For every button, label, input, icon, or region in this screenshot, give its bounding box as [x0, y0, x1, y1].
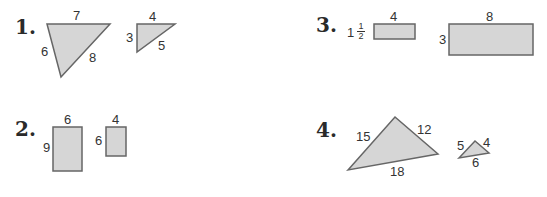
p1-small-triangle	[137, 24, 175, 52]
p4-small-left-label: 5	[457, 139, 464, 152]
p1-small-left-label: 3	[126, 31, 133, 44]
p1-small-hyp-label: 5	[158, 39, 165, 52]
p3-large-rectangle	[449, 24, 533, 55]
p3-small-height-denominator: 2	[357, 32, 365, 41]
figures-canvas	[0, 0, 547, 197]
p2-small-rectangle	[106, 127, 126, 156]
p2-small-height-label: 6	[95, 134, 102, 147]
p1-small-top-label: 4	[149, 10, 156, 23]
p4-small-bottom-label: 6	[472, 156, 479, 169]
p3-small-width-label: 4	[390, 10, 397, 23]
p3-large-width-label: 8	[486, 10, 493, 23]
p4-small-right-label: 4	[483, 136, 490, 149]
p2-large-width-label: 6	[64, 113, 71, 126]
p4-large-left-label: 15	[356, 130, 370, 143]
p3-large-height-label: 3	[439, 33, 446, 46]
p2-small-width-label: 4	[112, 113, 119, 126]
problem-3-number: 3.	[316, 13, 337, 37]
p3-small-height-whole: 1	[347, 26, 354, 39]
p1-large-left-label: 6	[41, 45, 48, 58]
p1-large-top-label: 7	[73, 9, 80, 22]
problem-4-number: 4.	[316, 118, 337, 142]
p4-large-bottom-label: 18	[390, 165, 404, 178]
problem-2-number: 2.	[15, 117, 36, 141]
p2-large-rectangle	[53, 127, 82, 171]
p4-large-right-label: 12	[417, 123, 431, 136]
p3-small-rectangle	[374, 24, 415, 39]
p1-large-right-label: 8	[89, 51, 96, 64]
p1-large-triangle	[47, 24, 110, 77]
p3-small-height-numerator: 1	[357, 22, 365, 31]
problem-1-number: 1.	[15, 15, 36, 39]
p2-large-height-label: 9	[43, 141, 50, 154]
